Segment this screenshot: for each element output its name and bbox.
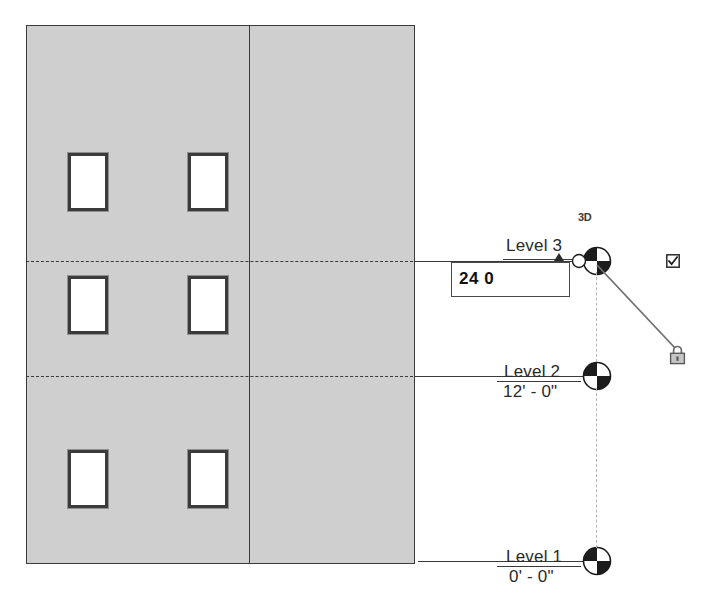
- window-5[interactable]: [68, 450, 108, 508]
- alignment-guide-upper: [596, 272, 597, 362]
- level-1-elevation[interactable]: 0' - 0": [509, 567, 554, 587]
- view-orientation-label: 3D: [578, 211, 591, 223]
- dimension-input[interactable]: 24 0: [451, 262, 570, 297]
- drawing-canvas[interactable]: Level 3 Level 2 12' - 0" Level 1 0' - 0"…: [0, 0, 710, 594]
- padlock-closed-icon[interactable]: [669, 345, 686, 365]
- level-3-endpoint-grip[interactable]: [570, 252, 588, 270]
- window-3[interactable]: [68, 276, 108, 334]
- level-1-head-bubble[interactable]: [582, 546, 612, 576]
- level-3-line-dashed[interactable]: [26, 261, 418, 262]
- level-3-drag-handle[interactable]: [553, 252, 565, 262]
- level-1-name[interactable]: Level 1: [506, 547, 562, 567]
- window-1[interactable]: [68, 153, 108, 211]
- window-6[interactable]: [188, 450, 228, 508]
- constraint-checkbox[interactable]: [666, 254, 680, 268]
- level-2-head-bubble[interactable]: [582, 361, 612, 391]
- level-2-line-dashed[interactable]: [26, 376, 418, 377]
- wall-seam-line: [249, 25, 250, 564]
- window-2[interactable]: [188, 153, 228, 211]
- window-4[interactable]: [188, 276, 228, 334]
- alignment-guide-lower: [596, 388, 597, 548]
- dimension-input-value: 24 0: [459, 269, 494, 289]
- level-2-elevation[interactable]: 12' - 0": [503, 382, 557, 402]
- level-2-name[interactable]: Level 2: [504, 362, 560, 382]
